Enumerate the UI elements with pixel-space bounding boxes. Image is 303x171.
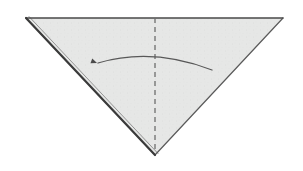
origami-fold-diagram: Origami fold step Downward-pointing tria… bbox=[0, 0, 303, 171]
fold-diagram-canvas bbox=[0, 0, 303, 171]
